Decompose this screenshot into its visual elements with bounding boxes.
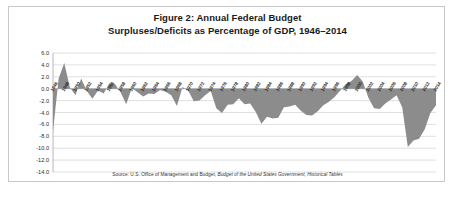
y-axis-tick-label: 4.0: [41, 62, 49, 68]
plot-area: -14.0-12.0-10.0-8.0-6.0-4.0-2.00.02.04.0…: [9, 39, 446, 181]
y-axis-tick-label: -2.0: [39, 98, 49, 104]
chart-title-line-1: Figure 2: Annual Federal Budget: [9, 12, 446, 25]
deficit-surplus-area: [53, 63, 436, 147]
source-note: Source: U.S. Office of Management and Bu…: [9, 172, 446, 177]
y-axis-tick-label: -4.0: [39, 110, 49, 116]
y-axis-tick-label: 0.0: [41, 86, 49, 92]
y-axis-tick-label: -12.0: [36, 157, 49, 163]
figure-container: Figure 2: Annual Federal Budget Surpluse…: [8, 6, 445, 182]
y-axis-tick-label: -6.0: [39, 121, 49, 127]
source-citation: Budget of the United States Government, …: [217, 172, 342, 177]
x-axis-tick-label: 1946: [50, 81, 60, 93]
x-axis-tick-label: 1968: [173, 81, 183, 93]
budget-area-chart: -14.0-12.0-10.0-8.0-6.0-4.0-2.00.02.04.0…: [9, 39, 446, 181]
y-axis-tick-label: 2.0: [41, 74, 49, 80]
y-axis-tick-label: 6.0: [41, 50, 49, 56]
chart-title: Figure 2: Annual Federal Budget Surpluse…: [9, 12, 446, 37]
y-axis-tick-label: -8.0: [39, 133, 49, 139]
x-axis-tick-label: 2014: [433, 81, 443, 93]
source-prefix: Source: U.S. Office of Management and Bu…: [112, 172, 217, 177]
y-axis-tick-label: -10.0: [36, 145, 49, 151]
chart-title-line-2: Surpluses/Deficits as Percentage of GDP,…: [9, 25, 446, 38]
